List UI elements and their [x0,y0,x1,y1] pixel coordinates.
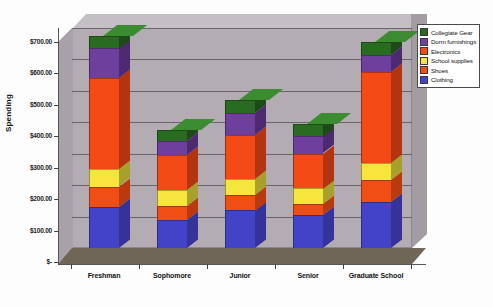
bar-segment-dorm-furnishings[interactable] [157,141,187,155]
bar-segment-dorm-furnishings[interactable] [225,113,255,135]
legend-label: Collegiate Gear [431,29,473,36]
bar-segment-shoes[interactable] [293,204,323,215]
segment-front-face [89,169,119,186]
segment-front-face [361,163,391,180]
x-tick-mark [207,264,208,269]
legend-item[interactable]: School supplies [420,56,476,65]
segment-side-face [255,126,266,179]
y-tick-mark [54,199,59,200]
legend-label: Clothing [431,76,453,83]
segment-front-face [293,215,323,248]
y-tick-label: $- [0,258,52,265]
bar-segment-electronics[interactable] [361,72,391,163]
bar-segment-electronics[interactable] [89,78,119,169]
legend-label: Shoes [431,67,448,74]
bar-segment-school-supplies[interactable] [225,179,255,195]
segment-front-face [225,100,255,113]
bar-segment-clothing[interactable] [89,207,119,248]
x-tick-mark [275,264,276,269]
segment-front-face [225,113,255,135]
bar-segment-clothing[interactable] [225,210,255,248]
segment-front-face [293,154,323,189]
legend-item[interactable]: Clothing [420,75,476,84]
y-tick-label: $700.00 [0,38,52,45]
bar-segment-dorm-furnishings[interactable] [293,136,323,153]
segment-front-face [225,210,255,248]
bar-segment-collegiate-gear[interactable] [89,36,119,49]
segment-front-face [89,187,119,207]
y-tick-mark [54,231,59,232]
legend-swatch-icon [420,57,428,65]
legend-swatch-icon [420,66,428,74]
segment-front-face [157,141,187,155]
bar-segment-collegiate-gear[interactable] [225,100,255,113]
bar-segment-shoes[interactable] [361,180,391,202]
x-tick-mark [139,264,140,269]
segment-side-face [391,63,402,163]
segment-front-face [89,207,119,248]
bar-segment-shoes[interactable] [157,206,187,220]
y-tick-label: $200.00 [0,195,52,202]
y-tick-mark [54,105,59,106]
bar-segment-shoes[interactable] [225,195,255,211]
legend-swatch-icon [420,28,428,36]
x-axis-line [58,264,426,265]
bar-segment-collegiate-gear[interactable] [361,42,391,55]
legend-item[interactable]: Shoes [420,66,476,75]
bar-segment-clothing[interactable] [157,220,187,248]
segment-front-face [157,206,187,220]
bar-segment-school-supplies[interactable] [157,190,187,206]
y-tick-mark [54,73,59,74]
y-tick-mark [54,262,59,263]
legend-swatch-icon [420,38,428,46]
bar-segment-school-supplies[interactable] [89,169,119,186]
bar-segment-electronics[interactable] [293,154,323,189]
y-tick-mark [54,42,59,43]
bar-segment-electronics[interactable] [157,155,187,190]
y-axis-line [58,28,59,264]
segment-front-face [89,48,119,78]
bar-segment-clothing[interactable] [361,202,391,248]
bar-segment-shoes[interactable] [89,187,119,207]
legend-item[interactable]: Dorm furnishings [420,37,476,46]
segment-front-face [293,124,323,137]
bar-segment-dorm-furnishings[interactable] [361,55,391,72]
legend-swatch-icon [420,76,428,84]
segment-front-face [157,130,187,141]
segment-side-face [391,194,402,248]
plot-area-floor [58,248,426,264]
segment-front-face [293,188,323,204]
x-tick-mark [343,264,344,269]
chart-legend: Collegiate GearDorm furnishingsElectroni… [417,24,480,88]
x-tick-mark [411,264,412,269]
y-tick-label: $600.00 [0,69,52,76]
segment-front-face [89,36,119,49]
segment-front-face [293,204,323,215]
x-category-label: Graduate School [331,272,421,279]
plot-area-left-wall [58,28,73,264]
bar-segment-school-supplies[interactable] [293,188,323,204]
bar-segment-dorm-furnishings[interactable] [89,48,119,78]
segment-front-face [157,190,187,206]
y-tick-label: $300.00 [0,164,52,171]
segment-front-face [361,42,391,55]
segment-front-face [225,179,255,195]
y-tick-mark [54,136,59,137]
legend-item[interactable]: Collegiate Gear [420,28,476,37]
bar-segment-clothing[interactable] [293,215,323,248]
bar-segment-electronics[interactable] [225,135,255,179]
segment-front-face [225,195,255,211]
bar-segment-collegiate-gear[interactable] [157,130,187,141]
bar-segment-school-supplies[interactable] [361,163,391,180]
legend-item[interactable]: Electronics [420,47,476,56]
segment-front-face [361,72,391,163]
segment-front-face [157,220,187,248]
legend-label: Dorm furnishings [431,38,476,45]
segment-front-face [89,78,119,169]
y-tick-label: $400.00 [0,132,52,139]
chart-container: $-$100.00$200.00$300.00$400.00$500.00$60… [0,0,493,307]
legend-swatch-icon [420,47,428,55]
x-tick-mark [71,264,72,269]
bar-segment-collegiate-gear[interactable] [293,124,323,137]
legend-label: Electronics [431,48,460,55]
